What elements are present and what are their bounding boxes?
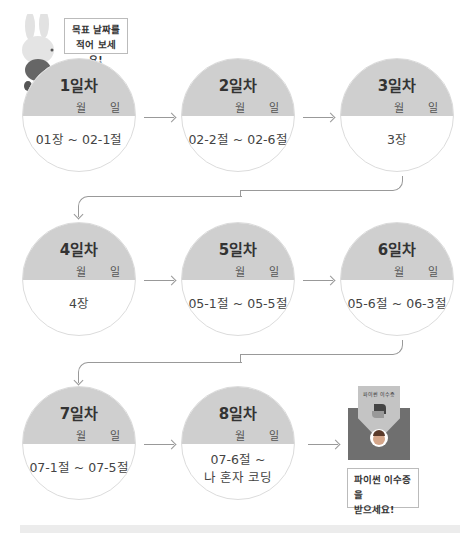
month-label: 월	[394, 263, 404, 279]
chapter-range: 4장	[23, 295, 135, 313]
arrow-right-icon	[303, 117, 333, 118]
day-7-circle: 7일차 월 일 07-1절 ~ 07-5절	[22, 386, 136, 500]
day-5-circle: 5일차 월 일 05-1절 ~ 05-5절	[181, 222, 295, 336]
chapter-range: 05-6절 ~ 06-3절	[341, 295, 453, 313]
speech-line-2: 받으세요!	[354, 502, 412, 517]
certificate-envelope-icon: 파이썬 이수증	[348, 384, 414, 464]
chapter-range: 05-1절 ~ 05-5절	[182, 295, 294, 313]
connector-line	[240, 354, 241, 363]
month-label: 월	[235, 263, 245, 279]
date-label: 일	[110, 427, 120, 443]
month-label: 월	[235, 99, 245, 115]
day-title: 3일차	[341, 74, 453, 95]
day-title: 7일차	[23, 402, 135, 423]
date-label: 일	[428, 263, 438, 279]
day-title: 2일차	[182, 74, 294, 95]
chapter-range: 07-6절 ~ 나 혼자 코딩	[182, 451, 294, 487]
day-title: 5일차	[182, 238, 294, 259]
chapter-range: 01장 ~ 02-1절	[23, 131, 135, 149]
month-label: 월	[76, 427, 86, 443]
date-label: 일	[110, 263, 120, 279]
arrow-right-icon	[144, 280, 174, 281]
connector-line	[78, 362, 242, 383]
day-title: 4일차	[23, 238, 135, 259]
arrow-right-icon	[308, 444, 338, 445]
day-8-circle: 8일차 월 일 07-6절 ~ 나 혼자 코딩	[181, 386, 295, 500]
month-label: 월	[76, 99, 86, 115]
day-4-circle: 4일차 월 일 4장	[22, 222, 136, 336]
date-label: 일	[269, 99, 279, 115]
month-label: 월	[76, 263, 86, 279]
speech-line-1: 목표 날짜를	[71, 22, 121, 37]
date-label: 일	[269, 263, 279, 279]
month-label: 월	[235, 427, 245, 443]
day-1-circle: 1일차 월 일 01장 ~ 02-1절	[22, 58, 136, 172]
speech-bubble-set-goal: 목표 날짜를 적어 보세요!	[64, 18, 128, 54]
connector-line	[240, 340, 403, 355]
arrow-right-icon	[144, 444, 174, 445]
arrow-right-icon	[303, 280, 333, 281]
date-label: 일	[269, 427, 279, 443]
chapter-range: 07-1절 ~ 07-5절	[23, 459, 135, 477]
footer-divider	[20, 525, 460, 533]
speech-line-1: 파이썬 이수증을	[354, 472, 412, 502]
day-2-circle: 2일차 월 일 02-2절 ~ 02-6절	[181, 58, 295, 172]
chapter-range: 3장	[341, 131, 453, 149]
connector-line	[240, 190, 241, 197]
svg-text:파이썬 이수증: 파이썬 이수증	[363, 391, 395, 398]
day-title: 6일차	[341, 238, 453, 259]
month-label: 월	[394, 99, 404, 115]
day-title: 8일차	[182, 402, 294, 423]
day-6-circle: 6일차 월 일 05-6절 ~ 06-3절	[340, 222, 454, 336]
date-label: 일	[428, 99, 438, 115]
arrow-right-icon	[144, 117, 174, 118]
chapter-range: 02-2절 ~ 02-6절	[182, 131, 294, 149]
connector-line	[240, 176, 403, 191]
chapter-range-line-1: 07-6절 ~	[182, 451, 294, 469]
connector-line	[78, 196, 242, 217]
day-3-circle: 3일차 월 일 3장	[340, 58, 454, 172]
chapter-range-line-2: 나 혼자 코딩	[182, 469, 294, 487]
speech-bubble-get-certificate: 파이썬 이수증을 받으세요!	[347, 468, 419, 508]
day-title: 1일차	[23, 74, 135, 95]
date-label: 일	[110, 99, 120, 115]
